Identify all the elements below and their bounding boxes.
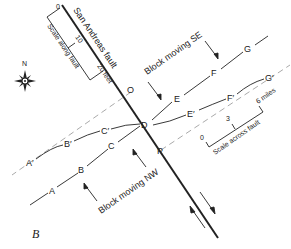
- arrow-nw-icon: [84, 149, 146, 201]
- block-se-label: Block moving SE: [142, 29, 203, 76]
- point-g: G: [244, 44, 251, 54]
- scale-along-tick-0: 0: [56, 3, 60, 10]
- point-p: P: [157, 146, 163, 156]
- san-andreas-fault-diagram: San Andreas fault 0 10 20 feet Scale alo…: [0, 0, 291, 249]
- north-compass-icon: [14, 70, 36, 92]
- point-b: B: [78, 165, 84, 175]
- fault-motion-arrows-icon: [190, 192, 215, 228]
- block-nw-label: Block moving NW: [96, 166, 160, 215]
- scale-across-tick-0: 0: [200, 134, 204, 141]
- point-c-prime: C′: [101, 126, 109, 136]
- point-a: A: [49, 186, 55, 196]
- scale-along-label: Scale along fault: [45, 23, 81, 70]
- scale-across-tick-3: 3: [226, 115, 230, 122]
- point-b-prime: B′: [64, 139, 72, 149]
- point-c: C: [108, 141, 115, 151]
- point-g-prime: G′: [265, 73, 274, 83]
- scale-across-label: Scale across fault: [212, 118, 261, 155]
- point-o: O: [127, 85, 134, 95]
- scale-across-fault: 0 3 6 miles Scale across fault: [200, 86, 277, 156]
- scale-across-tick-6: 6 miles: [255, 86, 278, 105]
- point-e: E: [174, 94, 180, 104]
- point-a-prime: A′: [26, 158, 34, 168]
- point-d: D: [141, 120, 148, 130]
- point-e-prime: E′: [187, 109, 195, 119]
- north-label: N: [22, 60, 27, 67]
- point-f: F: [211, 68, 217, 78]
- point-f-prime: F′: [227, 93, 234, 103]
- panel-label: B: [32, 227, 40, 241]
